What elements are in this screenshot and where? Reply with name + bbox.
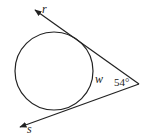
tangent-ray-r [35, 10, 139, 84]
label-s: s [27, 123, 32, 135]
label-angle: 54° [114, 77, 129, 88]
geometry-diagram [0, 0, 147, 136]
label-r: r [42, 3, 47, 15]
label-arc-w: w [95, 73, 103, 85]
circle [15, 32, 93, 110]
tangent-ray-s [20, 84, 139, 127]
